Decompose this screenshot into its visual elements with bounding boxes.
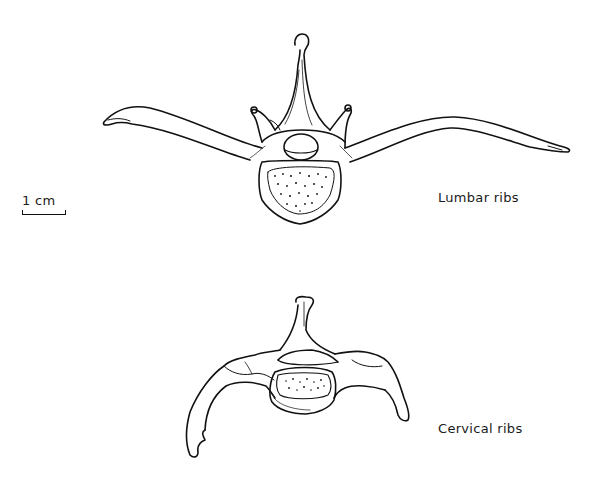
lumbar-ribs-label: Lumbar ribs xyxy=(438,190,519,205)
cervical-vertebra-drawing xyxy=(187,297,409,457)
vertebrae-illustration xyxy=(0,0,597,493)
figure xyxy=(0,0,597,493)
cervical-ribs-label: Cervical ribs xyxy=(438,421,522,436)
scale-bar-label: 1 cm xyxy=(22,193,55,208)
scale-bar xyxy=(22,210,66,215)
